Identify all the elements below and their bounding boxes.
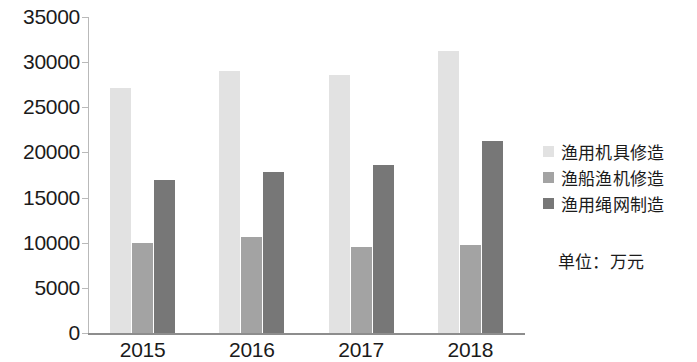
bar — [132, 243, 153, 333]
bar — [329, 75, 350, 333]
y-axis-tick-label: 10000 — [0, 231, 80, 255]
x-axis-tick-label: 2015 — [120, 338, 166, 362]
legend-label: 渔用绳网制造 — [561, 191, 664, 216]
y-axis-tick-label: 35000 — [0, 5, 80, 29]
plot-area — [88, 17, 525, 333]
legend-swatch-icon — [543, 198, 554, 209]
legend-item: 渔船渔机修造 — [543, 164, 697, 190]
bar — [110, 88, 131, 333]
y-axis-labels: 05000100001500020000250003000035000 — [0, 0, 80, 362]
y-axis-tick-label: 0 — [0, 321, 80, 345]
bar — [351, 247, 372, 333]
legend-label: 渔船渔机修造 — [561, 165, 664, 190]
legend-item: 渔用机具修造 — [543, 138, 697, 164]
y-axis-tick-label: 5000 — [0, 276, 80, 300]
bar-group — [329, 17, 394, 333]
bar — [460, 245, 481, 333]
bar-group — [438, 17, 503, 333]
bar-chart: 05000100001500020000250003000035000 2015… — [0, 0, 697, 362]
x-axis-tick-label: 2018 — [448, 338, 494, 362]
bar — [373, 165, 394, 333]
bar-group — [219, 17, 284, 333]
bar — [482, 141, 503, 333]
legend-item: 渔用绳网制造 — [543, 190, 697, 216]
unit-note: 单位：万元 — [558, 248, 644, 273]
chart-legend: 渔用机具修造渔船渔机修造渔用绳网制造 — [543, 138, 697, 216]
y-axis-tick-label: 15000 — [0, 186, 80, 210]
y-axis-tick-label: 30000 — [0, 50, 80, 74]
bar — [241, 237, 262, 333]
x-axis-tick-label: 2016 — [229, 338, 275, 362]
x-axis-line — [88, 333, 525, 335]
bar-group — [110, 17, 175, 333]
bar — [438, 51, 459, 333]
y-axis-tick-label: 20000 — [0, 140, 80, 164]
legend-label: 渔用机具修造 — [561, 139, 664, 164]
legend-swatch-icon — [543, 146, 554, 157]
x-axis-tick-label: 2017 — [338, 338, 384, 362]
bar — [154, 180, 175, 333]
legend-swatch-icon — [543, 172, 554, 183]
bar — [219, 71, 240, 333]
bar — [263, 172, 284, 333]
y-axis-tick-label: 25000 — [0, 95, 80, 119]
